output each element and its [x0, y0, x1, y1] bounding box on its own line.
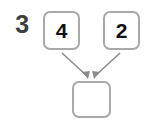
arrow-from-first-addend-head [82, 71, 90, 79]
worksheet-problem: 3 4 2 [0, 0, 147, 128]
arrow-from-second-addend-head [92, 71, 100, 79]
sum-answer-box[interactable] [72, 81, 111, 118]
